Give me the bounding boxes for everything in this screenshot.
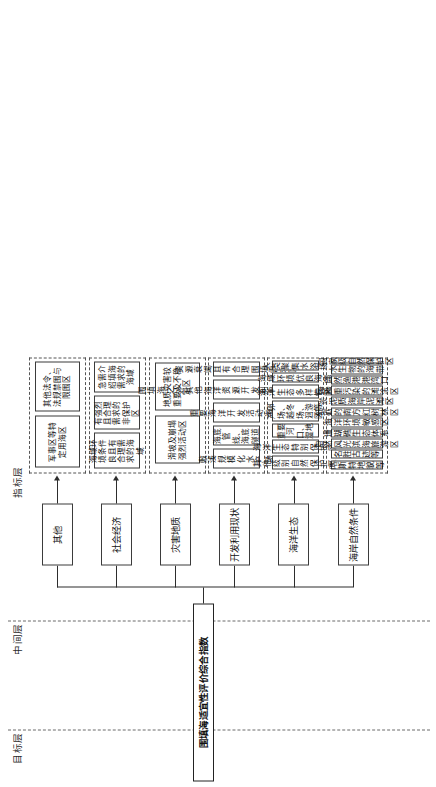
arrow-line-utilization — [234, 479, 235, 503]
indicator-natural-2: 自然风光滨海旅游区 — [331, 438, 383, 447]
layer-label-goal: 目标层 — [10, 732, 24, 764]
indicator-ecology-1: 海洋生态特别保护区 — [272, 439, 319, 453]
arrow-head-economy — [113, 475, 119, 480]
indicator-utilization-3: 围填海之外其他海洋资源开发利用方式进行海域 — [213, 379, 260, 399]
middle-box-economy: 社会经济 — [101, 503, 132, 565]
middle-box-natural: 海岸自然条件 — [338, 503, 369, 565]
trunk-stub-economy — [116, 565, 117, 587]
trunk-stub-natural — [353, 565, 354, 587]
arrow-head-other — [54, 475, 60, 480]
goal-trunk-stub — [203, 587, 204, 603]
indicator-ecology-6: 人类聚集水浴场 — [272, 360, 319, 370]
arrow-head-geology — [172, 475, 178, 480]
arrow-head-natural — [350, 475, 356, 480]
indicator-geology-0: 滑坡及崩塌强烈活动区 — [155, 415, 200, 463]
trunk-stub-ecology — [294, 565, 295, 587]
indicator-natural-9: 水生物的海带 — [331, 364, 383, 373]
indicator-natural-7: 已严重污染的滩涂区 — [331, 385, 383, 394]
indicator-natural-6: 淤泥质海岸泥滩区 — [331, 396, 383, 405]
indicator-natural-10: 国家级自然保护区 — [331, 357, 383, 363]
indicator-natural-8: 自然渔港港湾口 — [331, 375, 383, 384]
indicator-natural-4: 海洋环境敏感区 — [331, 417, 383, 426]
trunk-stub-other — [57, 565, 58, 587]
indicator-ecology-5: 海域环境优良海湾 — [272, 372, 319, 382]
indicator-economy-2: 急需介绍填海需求的海域 — [94, 361, 140, 392]
trunk-stub-utilization — [234, 565, 235, 587]
arrow-line-natural — [353, 479, 354, 503]
middle-box-geology: 灾害地质 — [160, 503, 191, 565]
diagram-canvas: 目标层 中间层 指标层 围填海适宜性评价综合指数 其他 社会经济 灾害地质 开发… — [0, 0, 436, 787]
indicator-ecology-2: 重要河口、湿地 — [272, 423, 319, 437]
arrow-head-ecology — [291, 475, 297, 480]
arrow-line-economy — [116, 479, 117, 503]
arrow-line-other — [57, 479, 58, 503]
indicator-other-1: 其他法令、法规禁围与限围区 — [35, 361, 80, 411]
indicator-ecology-0: 其他级别自然保护区 — [272, 455, 319, 469]
indicator-economy-1: 有强烈且合理需求的非保护区 — [94, 395, 140, 429]
indicator-natural-3: 珊瑚礁生态体系 — [331, 428, 383, 437]
middle-box-utilization: 开发利用现状 — [219, 503, 250, 565]
layer-divider-goal — [8, 729, 430, 730]
indicator-utilization-4: 资源衰竭且有合理围填需求区 — [213, 361, 260, 376]
layer-divider-middle — [8, 620, 430, 621]
indicator-natural-5: 砥砺的南方红树林区 — [331, 407, 383, 416]
goal-box: 围填海适宜性评价综合指数 — [193, 603, 214, 781]
goal-trunk-spine — [57, 586, 353, 587]
indicator-natural-1: 名胜古迹等 — [331, 449, 383, 458]
indicator-utilization-2: 重要海洋开发活动海域 — [213, 402, 260, 422]
layer-label-indicator: 指标层 — [10, 466, 24, 498]
arrow-line-ecology — [294, 479, 295, 503]
layer-label-middle: 中间层 — [10, 623, 24, 655]
indicator-economy-0: 海域环境条件良且有合理需求的海域 — [94, 432, 140, 468]
middle-box-ecology: 海洋生态 — [278, 503, 309, 565]
arrow-head-utilization — [231, 475, 237, 480]
indicator-ecology-4: 海洋生态多样性区 — [272, 384, 319, 398]
indicator-natural-0: 喀斯特地貌等 — [331, 460, 383, 469]
indicator-ecology-3: 产卵场、越冬场、洄游区等 — [272, 400, 319, 421]
indicator-other-0: 军事区等特定用海区 — [35, 415, 80, 467]
trunk-stub-geology — [175, 565, 176, 587]
middle-box-other: 其他 — [42, 503, 73, 565]
arrow-line-geology — [175, 479, 176, 503]
